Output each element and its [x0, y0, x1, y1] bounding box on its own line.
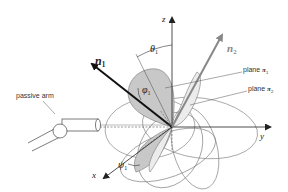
theta1-label: θ1: [150, 43, 158, 55]
y-axis-label: y: [260, 131, 264, 141]
plane-pi1-label: plane π1: [243, 66, 268, 75]
phi1-label: φ1: [142, 84, 151, 96]
z-axis-label: z: [162, 14, 166, 24]
vector-n2: [172, 35, 222, 127]
passive-arm-label: passive arm: [16, 92, 54, 99]
n2-label: n2: [227, 42, 236, 55]
diagram-canvas: z y x n1 n2 θ1 φ1 ψ1 passive arm plane π…: [0, 0, 288, 192]
x-axis-label: x: [92, 170, 96, 180]
psi1-label: ψ1: [118, 159, 127, 171]
plane-pi2-label: plane π2: [248, 85, 273, 94]
n1-label: n1: [95, 54, 105, 69]
